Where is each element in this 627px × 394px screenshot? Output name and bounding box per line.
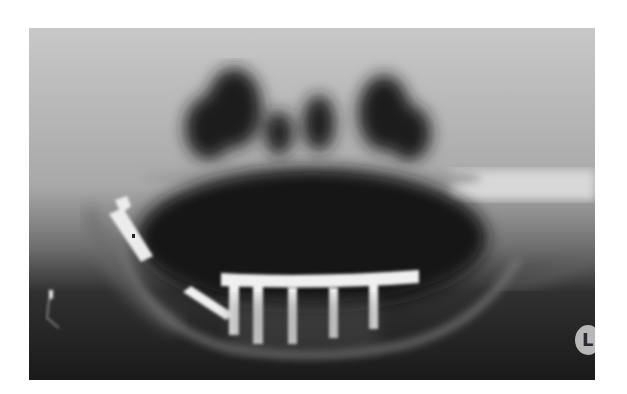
panoramic-xray: L xyxy=(29,28,595,380)
xray-graphic xyxy=(29,28,595,380)
side-marker-label: L xyxy=(582,329,593,350)
side-marker-badge: L xyxy=(575,325,595,355)
